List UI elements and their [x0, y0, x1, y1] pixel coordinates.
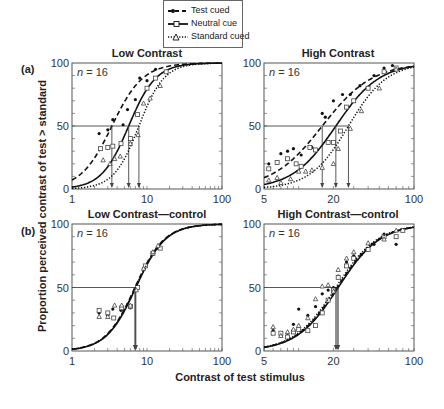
- data-point: [292, 147, 295, 150]
- fit-curve-neutral-cue: [264, 66, 414, 184]
- data-point: [145, 79, 148, 82]
- panel-1: 050100110100n = 16: [51, 57, 232, 205]
- data-point: [158, 83, 162, 87]
- data-point: [286, 157, 290, 161]
- data-point: [345, 261, 348, 264]
- data-point: [134, 98, 137, 101]
- legend-label: Neutral cue: [191, 17, 237, 30]
- data-point: [352, 99, 356, 103]
- data-point: [288, 177, 292, 181]
- data-point: [336, 267, 340, 271]
- data-point: [310, 168, 314, 172]
- data-point: [391, 64, 394, 67]
- data-point: [154, 76, 158, 80]
- sample-size-label: n = 16: [77, 66, 108, 78]
- data-point: [338, 129, 342, 133]
- figure-canvas: 050100110100n = 16050100520100n = 160501…: [0, 0, 444, 409]
- data-point: [126, 108, 129, 111]
- data-point: [336, 275, 340, 279]
- y-tick-label: 50: [249, 282, 261, 294]
- data-point: [154, 68, 157, 71]
- data-point: [320, 311, 324, 315]
- data-point: [299, 164, 303, 168]
- panel-title-high-contrast-control: High Contrast—control: [258, 208, 418, 220]
- data-point: [331, 162, 335, 166]
- data-point: [292, 323, 295, 326]
- x-tick-label: 1: [69, 193, 75, 205]
- data-point: [279, 152, 282, 155]
- data-point: [286, 335, 290, 339]
- data-point: [106, 145, 110, 149]
- data-point: [120, 303, 124, 307]
- legend-item-neutral-cue: Neutral cue: [168, 17, 242, 30]
- data-point: [294, 162, 298, 166]
- data-point: [331, 140, 335, 144]
- data-point: [306, 329, 310, 333]
- data-point: [327, 288, 330, 291]
- fit-curve-standard-cued: [72, 224, 222, 349]
- data-point: [313, 297, 317, 301]
- data-point: [320, 165, 324, 169]
- x-axis-label: Contrast of test stimulus: [140, 371, 340, 383]
- data-point: [306, 316, 310, 320]
- fit-curve-neutral-cue: [72, 224, 222, 349]
- data-point: [326, 140, 330, 144]
- x-tick-label: 10: [141, 355, 153, 367]
- data-point: [314, 305, 317, 308]
- panel-title-low-contrast-control: Low Contrast—control: [67, 208, 227, 220]
- x-tick-label: 1: [69, 355, 75, 367]
- x-tick-label: 100: [213, 193, 231, 205]
- data-point: [111, 118, 114, 121]
- data-point: [267, 178, 271, 182]
- data-point: [99, 147, 103, 151]
- row-label-a: (a): [21, 63, 34, 75]
- x-tick-label: 100: [405, 355, 423, 367]
- panel-title-low-contrast: Low Contrast: [67, 47, 227, 59]
- data-point: [300, 153, 303, 156]
- data-point: [97, 314, 101, 318]
- data-point: [121, 123, 124, 126]
- data-point: [145, 86, 149, 90]
- legend-item-test-cued: Test cued: [168, 4, 242, 17]
- row-label-b: (b): [21, 225, 35, 237]
- panel-title-high-contrast: High Contrast: [258, 47, 418, 59]
- data-point: [321, 292, 324, 295]
- fit-curve-test-cued: [72, 224, 222, 349]
- data-point: [156, 243, 160, 247]
- data-point: [382, 70, 386, 74]
- data-point: [291, 327, 295, 331]
- legend: Test cued Neutral cue Standard cued: [163, 0, 243, 48]
- data-point: [352, 250, 356, 254]
- data-point: [164, 70, 168, 74]
- legend-label: Test cued: [191, 4, 230, 17]
- data-point: [112, 303, 116, 307]
- x-tick-label: 10: [141, 193, 153, 205]
- data-point: [112, 156, 116, 160]
- x-tick-label: 5: [261, 355, 267, 367]
- data-point: [359, 109, 363, 113]
- dotted-line-open-triangle-icon: [168, 33, 188, 41]
- y-axis-label: Proportion perceived contrast of test > …: [36, 76, 48, 336]
- data-point: [336, 146, 340, 150]
- data-point: [97, 308, 101, 312]
- data-point: [271, 325, 275, 329]
- data-point: [297, 323, 301, 327]
- x-tick-label: 5: [261, 193, 267, 205]
- data-point: [297, 307, 300, 310]
- data-point: [308, 145, 312, 149]
- data-point: [394, 235, 398, 239]
- data-point: [118, 154, 122, 158]
- data-point: [286, 150, 289, 153]
- dashed-line-filled-circle-icon: [168, 7, 188, 15]
- panel-2: 050100520100n = 16: [243, 57, 424, 205]
- data-point: [345, 264, 349, 268]
- data-point: [111, 307, 114, 310]
- data-point: [275, 175, 279, 179]
- data-point: [345, 105, 349, 109]
- data-point: [111, 144, 115, 148]
- data-point: [324, 116, 327, 119]
- data-point: [349, 93, 352, 96]
- data-point: [275, 161, 279, 165]
- data-point: [314, 148, 318, 152]
- data-point: [297, 169, 301, 173]
